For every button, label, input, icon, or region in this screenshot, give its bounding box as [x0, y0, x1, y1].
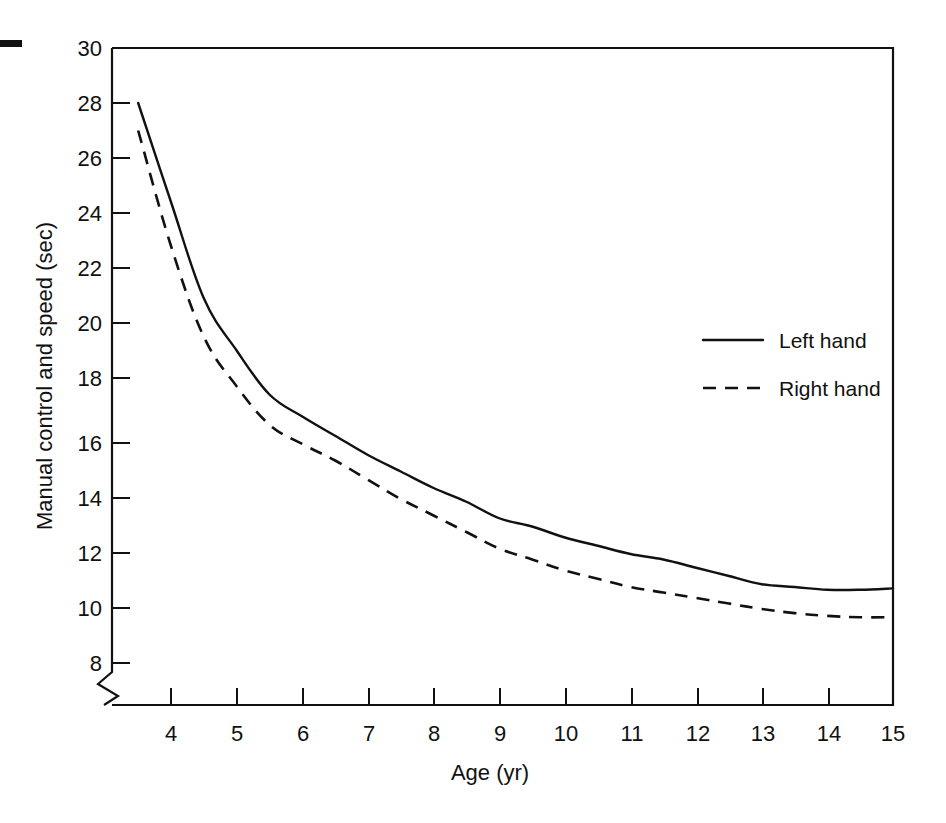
legend-item-right-hand[interactable]: Right hand [703, 377, 881, 400]
x-axis-title: Age (yr) [451, 760, 529, 785]
y-tick-label-16: 16 [78, 431, 102, 456]
y-tick-label-8: 8 [90, 651, 102, 676]
x-tick-label-15: 15 [881, 721, 905, 746]
x-tick-label-4: 4 [165, 721, 177, 746]
x-tick-label-8: 8 [428, 721, 440, 746]
y-tick-label-14: 14 [78, 486, 102, 511]
chart-canvas: 30 28 26 24 22 20 18 16 14 12 10 8 [0, 0, 946, 823]
x-tick-label-6: 6 [297, 721, 309, 746]
x-tick-label-5: 5 [231, 721, 243, 746]
x-tick-label-14: 14 [817, 721, 841, 746]
y-tick-label-28: 28 [78, 91, 102, 116]
x-tick-label-9: 9 [494, 721, 506, 746]
y-tick-labels: 30 28 26 24 22 20 18 16 14 12 10 8 [78, 36, 102, 676]
x-tick-label-10: 10 [554, 721, 578, 746]
y-tick-label-30: 30 [78, 36, 102, 61]
axis-box [112, 48, 893, 705]
y-tick-label-24: 24 [78, 201, 102, 226]
x-tick-label-7: 7 [363, 721, 375, 746]
y-tick-label-10: 10 [78, 596, 102, 621]
legend: Left hand Right hand [703, 329, 881, 400]
legend-label-right-hand: Right hand [779, 377, 881, 400]
y-tick-label-20: 20 [78, 311, 102, 336]
series-group [138, 103, 893, 617]
x-tick-labels: 4 5 6 7 8 9 10 11 12 13 14 15 [165, 721, 905, 746]
y-axis-ticks [112, 48, 130, 663]
x-tick-label-11: 11 [621, 721, 644, 746]
y-tick-label-26: 26 [78, 146, 102, 171]
figure-page: 30 28 26 24 22 20 18 16 14 12 10 8 [0, 0, 946, 823]
x-tick-label-13: 13 [751, 721, 775, 746]
plot-frame [98, 48, 893, 705]
legend-label-left-hand: Left hand [779, 329, 867, 352]
y-tick-label-18: 18 [78, 366, 102, 391]
x-tick-label-12: 12 [686, 721, 710, 746]
y-axis-title: Manual control and speed (sec) [32, 222, 57, 530]
legend-item-left-hand[interactable]: Left hand [703, 329, 867, 352]
y-tick-label-12: 12 [78, 541, 102, 566]
y-tick-label-22: 22 [78, 256, 102, 281]
x-axis-ticks [171, 688, 893, 705]
